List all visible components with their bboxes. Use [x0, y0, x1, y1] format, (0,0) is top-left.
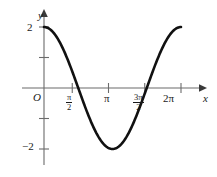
- x-tick-label-pi-over-2: π 2: [66, 93, 72, 111]
- fraction-denominator: 2: [133, 102, 144, 112]
- y-tick-label-2: 2: [27, 22, 33, 33]
- y-axis-label: y: [38, 10, 43, 21]
- x-axis-label: x: [203, 93, 208, 104]
- y-tick-label-neg2: −2: [22, 141, 34, 152]
- origin-label: O: [33, 92, 41, 103]
- fraction-3pi-over-2: 3π 2: [133, 93, 144, 111]
- fraction-pi-over-2: π 2: [66, 93, 72, 111]
- x-tick-label-2pi: 2π: [163, 93, 174, 104]
- x-tick-label-pi: π: [104, 93, 110, 104]
- fraction-numerator: π: [66, 93, 72, 102]
- x-tick-label-3pi-over-2: 3π 2: [133, 93, 144, 111]
- x-axis-arrow-icon: [199, 84, 207, 92]
- fraction-denominator: 2: [66, 102, 72, 112]
- fraction-numerator: 3π: [133, 93, 144, 102]
- trig-graph-figure: y x O 2 −2 π 2 π 3π 2 2π: [0, 0, 217, 177]
